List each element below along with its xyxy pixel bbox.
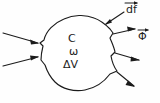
outgoing-arrow-lower [117, 72, 135, 87]
outgoing-arrow-upper [113, 27, 136, 34]
outgoing-arrow-middle [115, 53, 140, 62]
label-phi-vector: Φ [138, 31, 147, 42]
incoming-arrow-lower [3, 56, 39, 67]
incoming-arrow-upper [3, 33, 39, 45]
df-arrow [105, 12, 125, 25]
label-c: C [68, 33, 76, 44]
label-delta-v: ΔV [63, 59, 78, 70]
figure-root: C ω ΔV df Φ [0, 0, 160, 103]
label-omega: ω [69, 46, 78, 57]
label-df-vector: df [126, 4, 137, 15]
control-volume-outline [40, 15, 117, 90]
